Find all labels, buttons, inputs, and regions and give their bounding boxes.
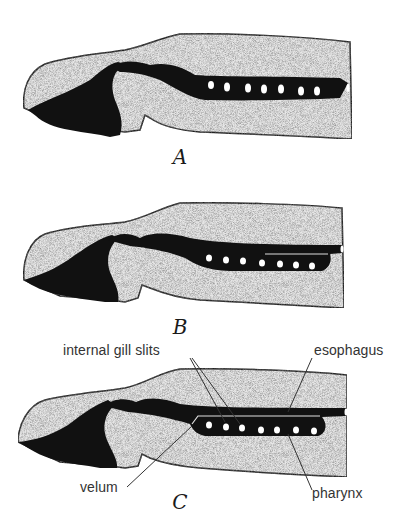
figure-c: internal gill slits esophagus velum phar… xyxy=(0,350,419,529)
panel-label-c: C xyxy=(172,490,187,514)
figure-b-drawing xyxy=(0,180,419,350)
panel-label-b: B xyxy=(173,315,188,339)
figure-c-drawing xyxy=(0,350,419,529)
figure-a-drawing xyxy=(0,0,419,180)
label-velum: velum xyxy=(80,479,118,495)
label-esophagus: esophagus xyxy=(314,342,383,358)
figure-b: B xyxy=(0,180,419,350)
panel-label-a: A xyxy=(173,145,187,169)
label-internal-gill-slits: internal gill slits xyxy=(63,342,160,358)
label-pharynx: pharynx xyxy=(312,485,363,501)
figure-a: A xyxy=(0,0,419,180)
